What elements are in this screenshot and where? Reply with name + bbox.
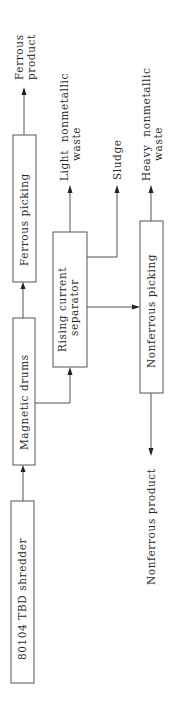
arrowhead-icon — [149, 448, 154, 456]
node-label-nonferrous-picking: Nonferrous picking — [145, 254, 157, 368]
output-label-heavy-waste: Heavy nonmetallic waste — [141, 68, 164, 181]
edge-rising-sludge — [87, 191, 117, 257]
output-label-ferrous-product: Ferrous product — [14, 34, 37, 80]
arrowhead-icon — [149, 185, 154, 193]
arrowhead-icon — [68, 185, 73, 193]
line: Heavy nonmetallic — [140, 68, 152, 181]
line: Rising current — [56, 267, 68, 352]
line: waste — [70, 127, 82, 181]
edge-magnetic-rising — [35, 373, 70, 403]
node-label-shredder: 80104 TBD shredder — [16, 538, 28, 660]
node-label-magnetic-drums: Magnetic drums — [18, 354, 30, 450]
output-label-light-waste: Light nonmetallic waste — [59, 73, 82, 181]
arrowhead-icon — [115, 185, 120, 193]
line: waste — [152, 127, 164, 181]
line: separator — [68, 279, 80, 352]
arrowhead-icon — [21, 282, 26, 289]
line: Ferrous — [13, 34, 25, 80]
arrowhead-icon — [22, 87, 27, 95]
output-label-sludge: Sludge — [111, 139, 123, 180]
arrowhead-icon — [132, 305, 140, 310]
arrowhead-icon — [68, 367, 73, 375]
line: Light nonmetallic — [58, 73, 70, 181]
line: product — [25, 34, 37, 80]
node-label-ferrous-picking: Ferrous picking — [18, 173, 30, 266]
output-label-nonferrous-product: Nonferrous product — [145, 468, 157, 585]
arrowhead-icon — [21, 465, 26, 472]
node-label-rising-current: Rising current separator — [57, 267, 80, 352]
